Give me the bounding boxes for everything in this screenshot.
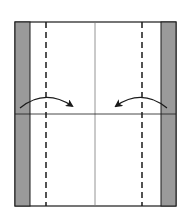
origami-diagram xyxy=(0,0,186,220)
